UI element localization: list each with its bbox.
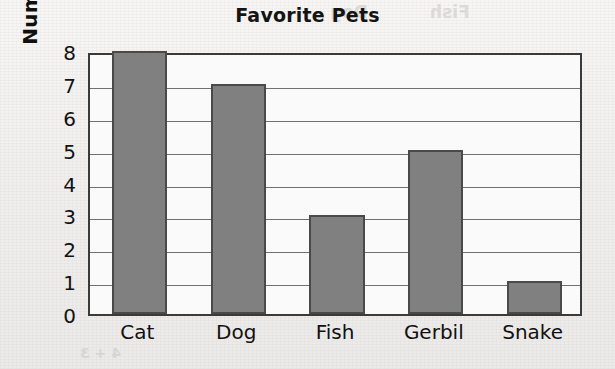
x-tick-label-fish: Fish (316, 320, 355, 344)
bar-cat (112, 51, 167, 314)
x-tick-label-gerbil: Gerbil (404, 320, 464, 344)
y-tick-label-3: 3 (63, 205, 76, 229)
x-tick-label-dog: Dog (216, 320, 256, 344)
bar-dog (211, 84, 266, 314)
y-tick-label-4: 4 (63, 173, 76, 197)
y-tick-label-6: 6 (63, 107, 76, 131)
bar-gerbil (408, 150, 463, 314)
bars-group (90, 55, 580, 314)
chart-page: DogFish9 = 163 = 12DogsGerbil4 + 3 Favor… (0, 0, 615, 369)
y-tick-label-7: 7 (63, 74, 76, 98)
y-tick-label-2: 2 (63, 238, 76, 262)
y-tick-label-1: 1 (63, 271, 76, 295)
y-axis-tick-labels: 876543210 (0, 0, 84, 369)
bar-fish (309, 215, 364, 314)
x-tick-label-snake: Snake (502, 320, 563, 344)
bar-snake (507, 281, 562, 314)
chart-title: Favorite Pets (0, 4, 615, 26)
y-tick-label-8: 8 (63, 41, 76, 65)
x-tick-label-cat: Cat (120, 320, 154, 344)
plot-area (88, 53, 582, 316)
x-axis-tick-labels: CatDogFishGerbilSnake (88, 320, 582, 354)
y-tick-label-5: 5 (63, 140, 76, 164)
y-tick-label-0: 0 (63, 304, 76, 328)
